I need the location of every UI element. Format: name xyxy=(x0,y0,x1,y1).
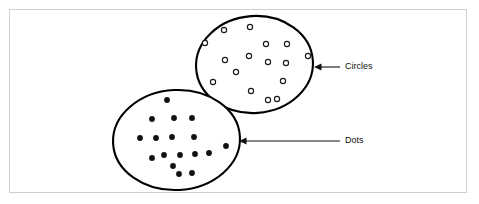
marker-circles-6 xyxy=(305,53,310,58)
marker-dots-10 xyxy=(177,152,183,158)
scatter-grouping-diagram: CirclesDots xyxy=(0,0,479,204)
marker-dots-16 xyxy=(206,150,212,156)
marker-circles-4 xyxy=(284,41,289,46)
marker-dots-11 xyxy=(192,151,198,157)
marker-dots-1 xyxy=(149,116,155,122)
marker-dots-14 xyxy=(176,171,182,177)
marker-dots-15 xyxy=(189,170,195,176)
marker-circles-2 xyxy=(202,40,207,45)
marker-dots-13 xyxy=(149,155,155,161)
group-outlines-layer xyxy=(110,12,316,193)
marker-dots-4 xyxy=(137,135,143,141)
marker-circles-14 xyxy=(274,96,279,101)
marker-circles-0 xyxy=(221,27,226,32)
callout-label-dots: Dots xyxy=(345,135,364,145)
marker-circles-8 xyxy=(265,59,270,64)
marker-dots-12 xyxy=(170,163,176,169)
figure-root: CirclesDots xyxy=(0,0,479,204)
marker-circles-9 xyxy=(283,60,288,65)
marker-dots-2 xyxy=(171,115,177,121)
marker-circles-13 xyxy=(265,97,270,102)
marker-dots-9 xyxy=(161,152,167,158)
marker-dots-7 xyxy=(191,134,197,140)
marker-circles-1 xyxy=(247,24,252,29)
callout-label-circles: Circles xyxy=(345,61,373,71)
marker-dots-3 xyxy=(189,115,195,121)
marker-dots-6 xyxy=(169,134,175,140)
marker-dots-5 xyxy=(153,135,159,141)
marker-dots-0 xyxy=(164,97,170,103)
marker-circles-10 xyxy=(210,79,215,84)
marker-circles-3 xyxy=(263,41,268,46)
marker-circles-12 xyxy=(248,88,253,93)
marker-dots-8 xyxy=(223,143,229,149)
marker-circles-7 xyxy=(222,57,227,62)
marker-circles-11 xyxy=(280,78,285,83)
marker-circles-15 xyxy=(233,69,238,74)
marker-circles-5 xyxy=(246,53,251,58)
callout-arrowhead-circles xyxy=(314,64,322,71)
